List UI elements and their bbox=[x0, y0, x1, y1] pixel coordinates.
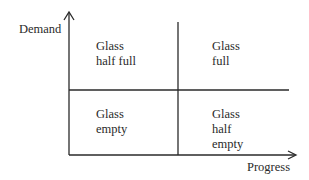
quadrant-bottom-left: Glass empty bbox=[96, 107, 127, 137]
quadrant-top-left: Glass half full bbox=[96, 39, 136, 69]
x-axis-label: Progress bbox=[247, 160, 290, 174]
quadrant-top-right: Glass full bbox=[212, 39, 240, 69]
y-axis-label: Demand bbox=[19, 22, 61, 36]
quadrant-bottom-right: Glass half empty bbox=[212, 107, 243, 152]
